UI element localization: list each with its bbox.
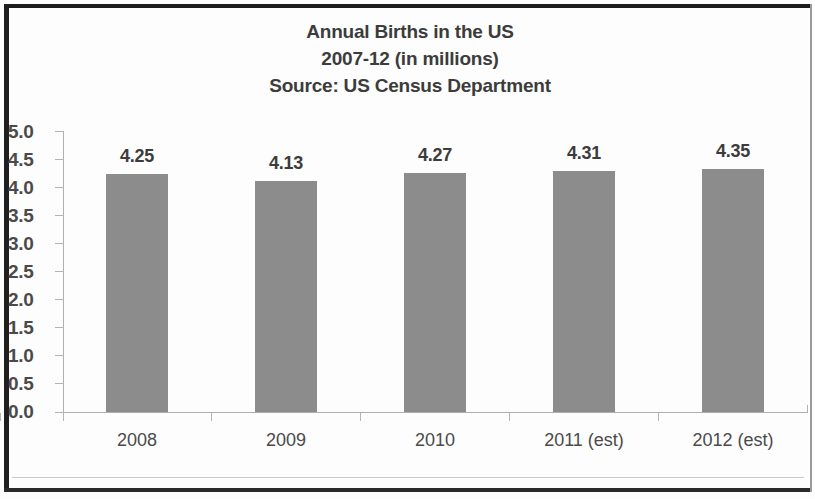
- bar-value-label-2011: 4.31: [543, 143, 625, 164]
- y-axis-label-3: 3.5: [8, 205, 54, 227]
- x-axis-end-tick: [807, 405, 808, 413]
- x-tick-mark-0: [63, 413, 64, 421]
- y-axis-label-4: 3.0: [8, 233, 54, 255]
- bar-value-label-2009: 4.13: [245, 153, 327, 174]
- bar-2010: [404, 173, 466, 412]
- x-axis-label-2011: 2011 (est): [528, 430, 640, 451]
- x-axis-label-2009: 2009: [245, 430, 327, 451]
- chart-figure: Annual Births in the US 2007-12 (in mill…: [0, 0, 815, 499]
- y-tick-mark-9: [55, 383, 64, 384]
- y-tick-mark-6: [55, 299, 64, 300]
- y-axis-label-1: 4.5: [8, 149, 54, 171]
- y-axis-label-10: 0.0: [8, 401, 54, 423]
- y-axis-label-9: 0.5: [8, 373, 54, 395]
- bar-value-label-2008: 4.25: [96, 146, 178, 167]
- x-tick-mark-4: [658, 413, 659, 421]
- y-tick-mark-3: [55, 215, 64, 216]
- x-tick-mark-2: [360, 413, 361, 421]
- y-axis-label-2: 4.0: [8, 177, 54, 199]
- plot-area: 5.0 4.5 4.0 3.5 3.0 2.5 2.0 1.5 1.0 0.5 …: [0, 0, 815, 499]
- y-tick-mark-1: [55, 159, 64, 160]
- bar-2012: [702, 169, 764, 412]
- x-tick-mark-3: [509, 413, 510, 421]
- y-tick-mark-5: [55, 271, 64, 272]
- x-axis-label-2008: 2008: [96, 430, 178, 451]
- bar-2009: [255, 181, 317, 412]
- x-tick-mark-1: [0, 413, 1, 421]
- x-tick-mark-1b: [211, 413, 212, 421]
- y-axis-label-5: 2.5: [8, 261, 54, 283]
- y-axis-label-8: 1.0: [8, 345, 54, 367]
- y-tick-mark-8: [55, 355, 64, 356]
- x-axis-label-2010: 2010: [394, 430, 476, 451]
- x-axis-line: [63, 412, 808, 413]
- x-axis-label-2012: 2012 (est): [677, 430, 789, 451]
- y-tick-mark-4: [55, 243, 64, 244]
- y-tick-mark-2: [55, 187, 64, 188]
- bar-value-label-2012: 4.35: [692, 141, 774, 162]
- y-tick-mark-7: [55, 327, 64, 328]
- bar-value-label-2010: 4.27: [394, 145, 476, 166]
- y-axis-line: [63, 131, 64, 413]
- y-axis-label-6: 2.0: [8, 289, 54, 311]
- bar-2008: [106, 174, 168, 412]
- y-axis-label-7: 1.5: [8, 317, 54, 339]
- bar-2011: [553, 171, 615, 412]
- y-tick-mark-0: [55, 131, 64, 132]
- y-axis-label-0: 5.0: [8, 121, 54, 143]
